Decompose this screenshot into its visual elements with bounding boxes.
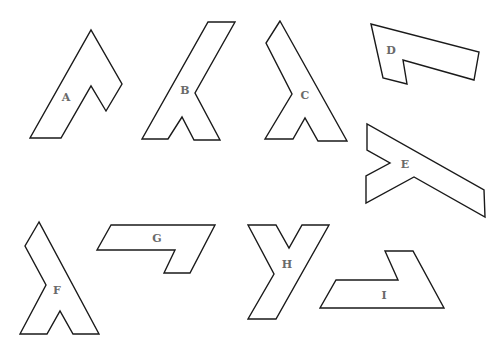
shape-a: A [30,30,122,138]
shape-label: C [301,89,310,102]
shape-b: B [142,22,235,140]
shape-layer: ABCDEFGHI [20,21,485,334]
shapes-figure: ABCDEFGHI [0,0,502,346]
shape-outline [265,21,347,141]
shape-outline [20,222,99,334]
shape-label: B [180,84,189,97]
shape-outline [248,225,329,319]
shape-label: F [53,284,61,297]
shape-label: G [152,232,161,245]
shape-outline [30,30,122,138]
shape-c: C [265,21,347,141]
figure-svg: ABCDEFGHI [0,0,502,346]
shape-d: D [371,24,479,84]
shape-e: E [366,124,485,217]
shape-outline [366,124,485,217]
shape-outline [142,22,235,140]
shape-label: E [401,158,409,171]
shape-label: D [386,44,396,57]
shape-h: H [248,225,329,319]
shape-label: A [61,91,71,104]
shape-f: F [20,222,99,334]
shape-label: H [282,258,292,271]
shape-label: I [381,289,386,302]
shape-i: I [320,251,444,308]
shape-g: G [97,225,215,273]
